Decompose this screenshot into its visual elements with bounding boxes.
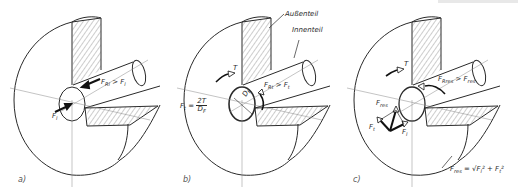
tangential-force-formula-b: Ft = 2TDF	[180, 98, 207, 114]
axial-force-label-a: Fl	[52, 113, 57, 121]
press-fit-drawing-c	[342, 0, 514, 187]
outer-part-label: Außenteil	[285, 11, 318, 18]
section-hatch-outer	[72, 18, 101, 85]
axial-force-label-c: Fl	[402, 129, 407, 137]
section-hatch-outer	[242, 18, 271, 85]
panel-a: FRl > Fl Fl a)	[0, 0, 172, 187]
resultant-force-label-c: Fres	[376, 100, 388, 108]
resultant-formula-c: Fres = √Fl² + Ft²	[450, 166, 504, 174]
panel-letter-b: b)	[183, 176, 191, 184]
tangential-force-label-c: Ft	[369, 124, 375, 132]
panel-b: Außenteil Innenteil T DF FRt > Ft Ft = 2…	[172, 0, 344, 187]
section-hatch-lower	[427, 106, 498, 126]
holding-force-label-a: FRl > Fl	[101, 79, 126, 87]
inner-part-label: Innenteil	[292, 27, 323, 34]
panel-letter-c: c)	[353, 176, 361, 184]
panel-c: T FRres > Fres Fres Ft Fl Fres = √Fl² + …	[342, 0, 514, 187]
section-hatch-lower	[87, 106, 158, 126]
press-fit-drawing-a	[0, 0, 172, 187]
section-hatch-lower	[257, 106, 328, 126]
holding-force-label-b: FRt > Ft	[264, 82, 290, 90]
panel-letter-a: a)	[18, 176, 26, 184]
section-hatch-outer	[412, 18, 441, 85]
holding-force-label-c: FRres > Fres	[438, 76, 475, 84]
torque-label-c: T	[404, 61, 408, 68]
torque-label-b: T	[233, 65, 237, 72]
